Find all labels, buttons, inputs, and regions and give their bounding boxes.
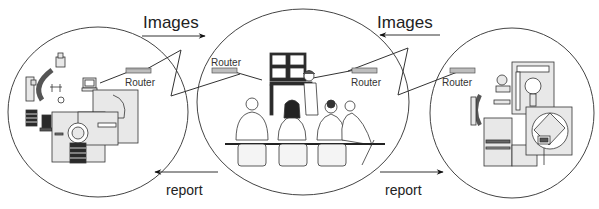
images-label-left: Images xyxy=(143,14,199,31)
router-label-center-left: Router xyxy=(211,58,241,68)
diagram-canvas xyxy=(0,0,599,209)
right-equipment-illustration xyxy=(471,62,572,166)
router-link-left-pc xyxy=(100,72,128,83)
center-site-circle xyxy=(197,9,409,195)
report-label-right: report xyxy=(385,183,422,197)
router-link-center-right xyxy=(313,70,355,78)
router-icon xyxy=(450,68,475,73)
router-icon xyxy=(212,68,237,73)
router-label-center-right: Router xyxy=(351,78,381,88)
left-equipment-illustration xyxy=(26,53,138,163)
router-icon xyxy=(352,68,377,73)
report-label-left: report xyxy=(166,183,203,197)
router-icon xyxy=(126,68,151,73)
images-label-right: Images xyxy=(377,14,433,31)
router-label-left-site: Router xyxy=(125,78,155,88)
router-label-right-site: Router xyxy=(442,78,472,88)
